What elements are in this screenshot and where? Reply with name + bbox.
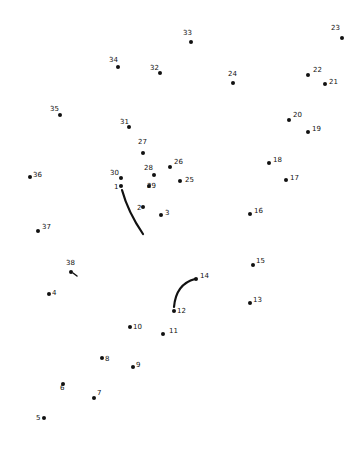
dot-label-14: 14	[200, 273, 209, 280]
dot-label-25: 25	[185, 177, 194, 184]
dot-12	[172, 309, 176, 313]
dot-label-29: 29	[147, 183, 156, 190]
dot-15	[251, 263, 255, 267]
dot-label-35: 35	[50, 106, 59, 113]
dot-20	[287, 118, 291, 122]
dot-2	[141, 205, 145, 209]
dot-33	[189, 40, 193, 44]
dot-label-13: 13	[253, 297, 262, 304]
dot-label-2: 2	[137, 205, 141, 212]
dot-5	[42, 416, 46, 420]
dot-19	[306, 130, 310, 134]
dot-label-36: 36	[33, 172, 42, 179]
dot-10	[128, 325, 132, 329]
dot-36	[28, 175, 32, 179]
dot-label-6: 6	[60, 385, 64, 392]
dot-label-26: 26	[174, 159, 183, 166]
dot-label-4: 4	[52, 290, 56, 297]
dot-11	[161, 332, 165, 336]
dot-22	[306, 73, 310, 77]
dot-label-34: 34	[109, 57, 118, 64]
dot-16	[248, 212, 252, 216]
dot-28	[152, 173, 156, 177]
dot-label-20: 20	[293, 112, 302, 119]
dot-label-23: 23	[331, 25, 340, 32]
dot-label-31: 31	[120, 119, 129, 126]
dot-label-30: 30	[110, 170, 119, 177]
connect-the-dots-puzzle: 1234567891011121314151617181920212223242…	[0, 0, 360, 452]
dot-23	[340, 36, 344, 40]
dot-38	[69, 270, 73, 274]
dot-label-17: 17	[290, 175, 299, 182]
dot-label-19: 19	[312, 126, 321, 133]
dot-35	[58, 113, 62, 117]
dot-label-18: 18	[273, 157, 282, 164]
dot-18	[267, 161, 271, 165]
stroke-38-tick	[73, 273, 77, 276]
dot-label-11: 11	[169, 328, 178, 335]
dot-24	[231, 81, 235, 85]
dot-14	[194, 277, 198, 281]
dot-21	[323, 82, 327, 86]
dot-label-21: 21	[329, 79, 338, 86]
dot-label-32: 32	[150, 65, 159, 72]
dot-label-3: 3	[165, 210, 169, 217]
dot-label-1: 1	[114, 184, 118, 191]
dot-label-10: 10	[133, 324, 142, 331]
dot-37	[36, 229, 40, 233]
dot-label-38: 38	[66, 260, 75, 267]
dot-13	[248, 301, 252, 305]
dot-26	[168, 165, 172, 169]
dot-label-7: 7	[97, 390, 101, 397]
dot-label-22: 22	[313, 67, 322, 74]
dot-label-24: 24	[228, 71, 237, 78]
dot-1	[119, 184, 123, 188]
dot-27	[141, 151, 145, 155]
stroke-12-14-curve	[174, 279, 195, 307]
dot-label-28: 28	[144, 165, 153, 172]
dot-label-16: 16	[254, 208, 263, 215]
dot-34	[116, 65, 120, 69]
dot-label-37: 37	[42, 224, 51, 231]
dot-label-33: 33	[183, 30, 192, 37]
dot-8	[100, 356, 104, 360]
pre-drawn-strokes	[0, 0, 360, 452]
dot-3	[159, 213, 163, 217]
dot-label-8: 8	[105, 356, 109, 363]
dot-17	[284, 178, 288, 182]
stroke-1-curve	[122, 190, 143, 234]
dot-7	[92, 396, 96, 400]
dot-9	[131, 365, 135, 369]
dot-30	[119, 176, 123, 180]
dot-label-5: 5	[36, 415, 40, 422]
dot-label-15: 15	[256, 258, 265, 265]
dot-label-27: 27	[138, 139, 147, 146]
dot-25	[178, 179, 182, 183]
dot-label-9: 9	[136, 362, 140, 369]
dot-4	[47, 292, 51, 296]
dot-label-12: 12	[177, 308, 186, 315]
